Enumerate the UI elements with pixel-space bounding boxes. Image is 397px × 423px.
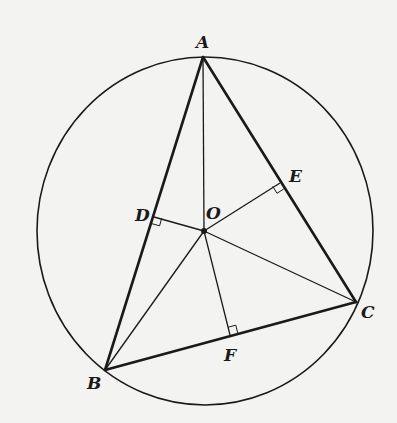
label-e: E bbox=[288, 166, 303, 186]
perpendicular-of bbox=[204, 231, 230, 335]
radius-ob bbox=[105, 231, 204, 370]
center-point-o bbox=[201, 228, 207, 234]
right-angle-mark-e bbox=[273, 186, 284, 193]
label-o: O bbox=[206, 203, 221, 223]
side-ab bbox=[105, 57, 203, 370]
label-a: A bbox=[194, 32, 209, 52]
side-ca bbox=[203, 57, 356, 302]
radius-oa bbox=[203, 57, 204, 231]
label-f: F bbox=[223, 345, 238, 365]
geometry-diagram: A B C D E F O bbox=[0, 0, 397, 423]
label-d: D bbox=[134, 205, 150, 225]
label-b: B bbox=[86, 373, 101, 393]
label-c: C bbox=[361, 302, 375, 322]
